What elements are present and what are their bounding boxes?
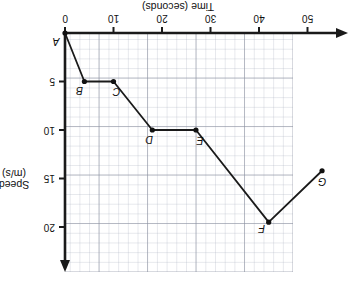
data-point-b	[82, 79, 87, 84]
point-label-c: C	[113, 87, 121, 99]
data-point-markers	[62, 30, 324, 224]
time-axis	[65, 27, 348, 38]
speed-tick-label: 20	[43, 222, 55, 233]
speed-axis-title: Speed(m/s)	[0, 169, 41, 191]
data-point-a	[62, 30, 67, 35]
speed-tick-label: 10	[43, 125, 55, 136]
point-label-d: D	[146, 134, 154, 146]
point-label-g: G	[318, 176, 326, 188]
point-label-e: E	[196, 135, 203, 147]
time-axis-title: Time (seconds)	[118, 1, 238, 12]
data-point-d	[150, 127, 155, 132]
time-tick-label: 10	[108, 13, 120, 24]
speed-axis	[59, 33, 70, 272]
speed-tick-label: 15	[43, 173, 55, 184]
speed-axis-title-units: (m/s)	[2, 169, 26, 181]
time-tick-label: 40	[253, 13, 265, 24]
point-label-b: B	[76, 86, 83, 98]
speed-time-chart: 01020304050 5101520 ABCDEFG Time (second…	[0, 0, 358, 283]
point-label-f: F	[258, 223, 264, 235]
time-axis-arrow	[336, 28, 348, 38]
data-point-g	[319, 168, 324, 173]
data-point-f	[266, 220, 271, 225]
time-tick-label: 20	[156, 13, 168, 24]
time-tick-label: 50	[302, 13, 314, 24]
data-point-e	[193, 127, 198, 132]
speed-time-line	[65, 33, 322, 222]
time-tick-label: 30	[205, 13, 217, 24]
speed-tick-label: 5	[49, 76, 55, 87]
speed-axis-title-name: Speed	[0, 180, 29, 192]
time-tick-label: 0	[62, 13, 68, 24]
speed-axis-arrow	[60, 260, 70, 272]
data-point-c	[111, 79, 116, 84]
point-label-a: A	[52, 36, 59, 48]
